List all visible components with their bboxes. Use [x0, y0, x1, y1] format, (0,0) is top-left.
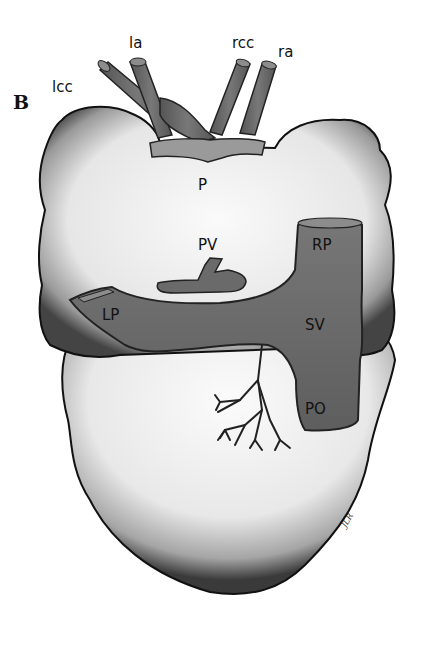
label-lcc: lcc — [52, 78, 73, 96]
label-rcc: rcc — [232, 34, 254, 52]
label-lp: LP — [102, 306, 119, 324]
label-sv: SV — [305, 316, 326, 334]
heart-diagram: B lcc la rcc ra P PV RP LP SV PO J — [0, 0, 425, 647]
vessel-rp-opening — [298, 218, 362, 228]
label-p: P — [198, 176, 207, 194]
label-rp: RP — [312, 236, 331, 254]
label-la: la — [129, 34, 142, 52]
label-ra: ra — [278, 43, 293, 61]
panel-label: B — [13, 91, 29, 113]
label-po: PO — [305, 400, 326, 418]
vessel-la-opening — [130, 58, 146, 66]
label-pv: PV — [198, 236, 218, 254]
